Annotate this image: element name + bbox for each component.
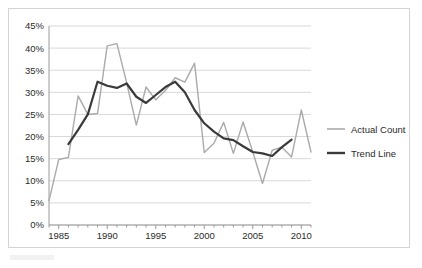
gridlines bbox=[49, 26, 311, 225]
y-axis-tick-label: 35% bbox=[25, 65, 45, 76]
y-axis-tick-label: 25% bbox=[25, 109, 45, 120]
y-axis-tick-label: 15% bbox=[25, 153, 45, 164]
footer-artifact bbox=[10, 255, 54, 260]
chart-legend: Actual CountTrend Line bbox=[327, 124, 406, 159]
screenshot-root: 0%5%10%15%20%25%30%35%40%45% 19851990199… bbox=[0, 0, 422, 268]
y-axis-tick-label: 40% bbox=[25, 43, 45, 54]
y-axis-tick-label: 30% bbox=[25, 87, 45, 98]
x-axis-tick-label: 1985 bbox=[48, 230, 69, 241]
y-axis-tick-label: 45% bbox=[25, 20, 45, 31]
series-line-trend-line bbox=[68, 82, 291, 156]
series-line-actual-count bbox=[49, 44, 311, 201]
series-actual-count bbox=[49, 44, 311, 201]
x-axis-tick-label: 2010 bbox=[291, 230, 312, 241]
legend-label: Actual Count bbox=[351, 124, 406, 135]
y-axis-tick-labels: 0%5%10%15%20%25%30%35%40%45% bbox=[25, 20, 45, 230]
x-axis-tick-label: 1990 bbox=[97, 230, 118, 241]
x-axis-tick-label: 2005 bbox=[242, 230, 263, 241]
x-axis-minor-ticks bbox=[49, 225, 311, 229]
chart-frame: 0%5%10%15%20%25%30%35%40%45% 19851990199… bbox=[8, 8, 410, 248]
legend-label: Trend Line bbox=[351, 148, 396, 159]
x-axis-tick-labels: 198519901995200020052010 bbox=[48, 230, 312, 241]
y-axis-tick-label: 10% bbox=[25, 175, 45, 186]
x-axis-tick-label: 1995 bbox=[145, 230, 166, 241]
y-axis-tick-label: 20% bbox=[25, 131, 45, 142]
y-axis-tick-label: 0% bbox=[30, 219, 44, 230]
x-axis-tick-label: 2000 bbox=[194, 230, 215, 241]
y-axis-tick-label: 5% bbox=[30, 197, 44, 208]
line-chart: 0%5%10%15%20%25%30%35%40%45% 19851990199… bbox=[9, 9, 409, 247]
